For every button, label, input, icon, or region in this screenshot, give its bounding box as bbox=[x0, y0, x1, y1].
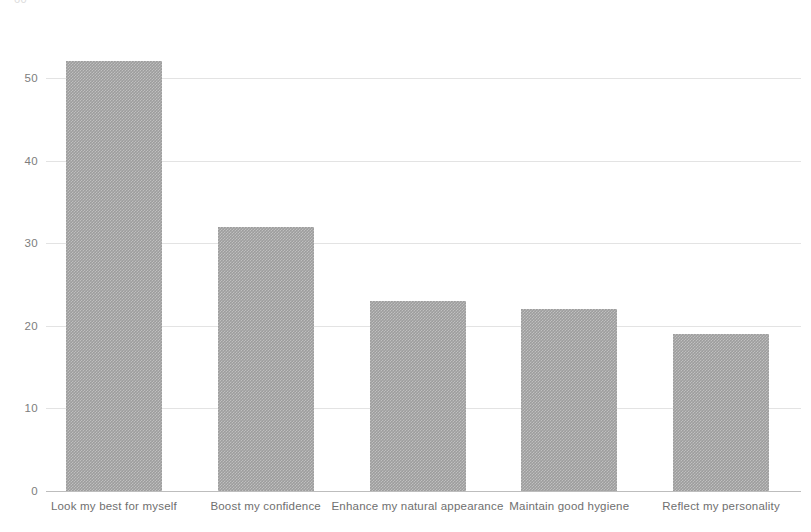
bar[interactable] bbox=[66, 61, 162, 491]
bar[interactable] bbox=[218, 227, 314, 491]
x-axis-tick-label: Reflect my personality bbox=[633, 499, 809, 514]
y-axis-tick-label: 50 bbox=[0, 72, 38, 84]
bar[interactable] bbox=[521, 309, 617, 491]
x-axis-tick-label: Look my best for myself bbox=[26, 499, 202, 514]
bar[interactable] bbox=[673, 334, 769, 491]
bar[interactable] bbox=[370, 301, 466, 491]
y-axis-tick-label: 30 bbox=[0, 237, 38, 249]
y-axis-tick-label: 20 bbox=[0, 320, 38, 332]
y-axis-tick-label: 0 bbox=[0, 485, 38, 497]
y-axis-tick-label: 40 bbox=[0, 155, 38, 167]
plot-area: 01020304050 Look my best for myselfBoost… bbox=[0, 0, 811, 532]
x-axis-tick-label: Enhance my natural appearance bbox=[330, 499, 506, 514]
x-axis-tick-label: Maintain good hygiene bbox=[481, 499, 657, 514]
gridline bbox=[46, 491, 801, 492]
bar-chart: 60 01020304050 Look my best for myselfBo… bbox=[0, 0, 811, 532]
y-axis-tick-label: 10 bbox=[0, 402, 38, 414]
x-axis-tick-label: Boost my confidence bbox=[178, 499, 354, 514]
